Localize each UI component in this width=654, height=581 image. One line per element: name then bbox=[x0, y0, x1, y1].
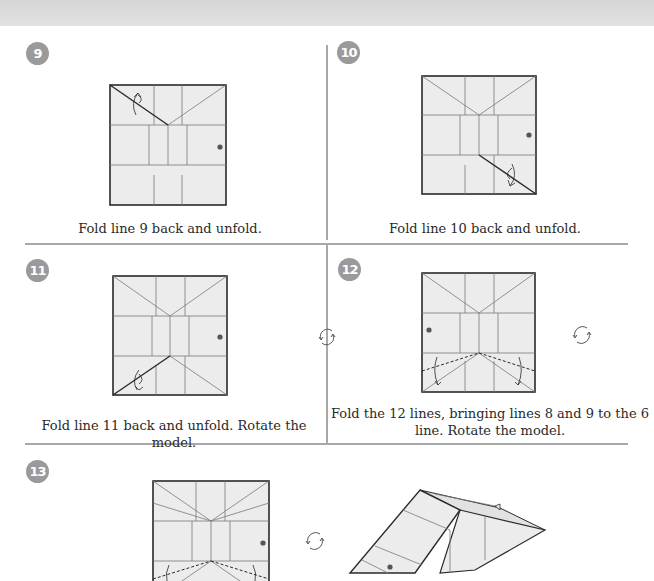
reference-dot-icon bbox=[387, 564, 392, 569]
vertical-divider-top bbox=[326, 45, 328, 240]
step-number-badge: 12 bbox=[338, 258, 361, 281]
rotate-model-icon bbox=[304, 530, 326, 552]
reference-dot-icon bbox=[217, 144, 222, 149]
step-number-badge: 11 bbox=[26, 259, 49, 282]
step-caption: Fold line 9 back and unfold. bbox=[25, 220, 315, 237]
step-number-badge: 9 bbox=[26, 42, 49, 65]
step-caption: Fold line 10 back and unfold. bbox=[340, 220, 630, 237]
rotate-model-icon bbox=[571, 324, 593, 346]
step-number-badge: 10 bbox=[337, 41, 360, 64]
page-header-band bbox=[0, 0, 654, 26]
rotate-model-icon bbox=[317, 327, 337, 347]
step-13-diagram-flat bbox=[153, 481, 269, 581]
step-10-diagram bbox=[422, 76, 536, 194]
reference-dot-icon bbox=[426, 327, 431, 332]
step-13-diagram-3d bbox=[340, 480, 560, 573]
reference-dot-icon bbox=[217, 334, 222, 339]
reference-dot-icon bbox=[260, 540, 265, 545]
step-caption: Fold line 11 back and unfold. Rotate the… bbox=[25, 417, 323, 451]
step-11-diagram bbox=[113, 276, 227, 395]
step-9-diagram bbox=[110, 85, 226, 205]
step-caption-line-1: Fold the 12 lines, bringing lines 8 and … bbox=[330, 405, 650, 422]
reference-dot-icon bbox=[526, 132, 531, 137]
step-number-badge: 13 bbox=[26, 460, 49, 483]
step-caption-line-2: line. Rotate the model. bbox=[330, 422, 650, 439]
step-12-diagram bbox=[422, 273, 535, 392]
